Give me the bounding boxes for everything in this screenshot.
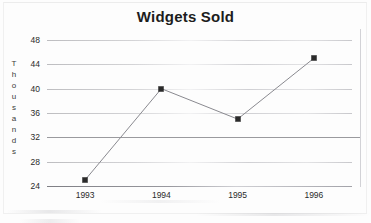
y-axis-title-letter: s [8, 102, 20, 113]
scan-artifact [100, 200, 220, 203]
gridline [47, 186, 352, 187]
plot-right-border [360, 29, 361, 187]
y-tick-label: 28 [31, 157, 40, 167]
y-axis-title-letter: T [8, 58, 20, 69]
y-axis-title-letter: u [8, 91, 20, 102]
x-tick-label: 1994 [152, 190, 171, 200]
y-tick-label: 32 [31, 132, 40, 142]
data-point-marker [311, 56, 316, 61]
y-tick-label: 40 [31, 84, 40, 94]
y-axis-title-letter: h [8, 69, 20, 80]
x-tick-label: 1993 [76, 190, 95, 200]
scan-artifact [6, 210, 102, 213]
y-axis-title-letter: s [8, 146, 20, 157]
y-axis-title-letter: a [8, 113, 20, 124]
y-tick-label: 44 [31, 59, 40, 69]
scan-artifact [20, 219, 80, 223]
data-point-marker [83, 177, 88, 182]
y-axis-title: T h o u s a n d s [8, 58, 20, 157]
series-polyline [85, 58, 314, 180]
y-tick-label: 24 [31, 181, 40, 191]
scan-artifact [196, 213, 371, 216]
y-axis-title-letter: n [8, 124, 20, 135]
x-tick-label: 1996 [304, 190, 323, 200]
y-tick-label: 48 [31, 35, 40, 45]
y-axis-title-letter: d [8, 135, 20, 146]
x-tick-label: 1995 [228, 190, 247, 200]
y-tick-label: 36 [31, 108, 40, 118]
data-point-marker [159, 86, 164, 91]
chart-figure: Widgets Sold T h o u s a n d s 242832364… [0, 0, 371, 223]
chart-title: Widgets Sold [0, 8, 371, 25]
series-line [47, 40, 352, 186]
data-point-marker [235, 117, 240, 122]
y-axis-title-letter: o [8, 80, 20, 91]
plot-area: 24283236404448 1993199419951996 [47, 40, 352, 186]
